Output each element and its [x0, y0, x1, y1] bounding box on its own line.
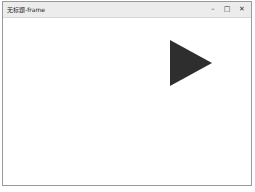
- close-icon: ✕: [239, 5, 245, 13]
- title-bar[interactable]: 无标题-frame – □ ✕: [3, 2, 251, 18]
- play-triangle-icon: [170, 40, 212, 86]
- minimize-icon: –: [211, 5, 215, 13]
- app-window: 无标题-frame – □ ✕: [2, 1, 252, 186]
- window-controls: – □ ✕: [207, 4, 249, 14]
- canvas-area: [3, 18, 251, 185]
- close-button[interactable]: ✕: [235, 4, 249, 14]
- minimize-button[interactable]: –: [207, 4, 219, 14]
- maximize-button[interactable]: □: [221, 4, 233, 14]
- maximize-icon: □: [224, 5, 231, 13]
- window-title: 无标题-frame: [7, 5, 45, 14]
